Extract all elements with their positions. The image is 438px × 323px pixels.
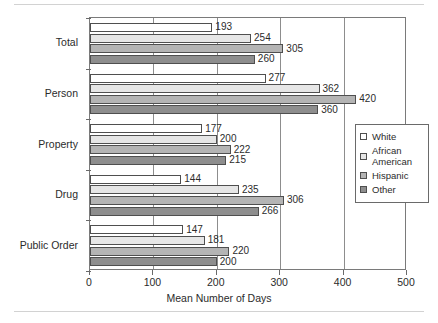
bar-row: 260 bbox=[90, 55, 405, 64]
bar-drug-hispanic bbox=[90, 196, 284, 205]
x-tick-label-400: 400 bbox=[334, 276, 352, 288]
x-tick-100 bbox=[152, 270, 153, 275]
x-tick-500 bbox=[406, 270, 407, 275]
bar-value-label: 220 bbox=[229, 246, 249, 256]
bar-row: 254 bbox=[90, 34, 405, 43]
bar-value-label: 222 bbox=[231, 145, 251, 155]
legend-swatch-hispanic bbox=[360, 172, 367, 179]
bar-person-african-american bbox=[90, 84, 320, 93]
bar-value-label: 181 bbox=[205, 235, 225, 245]
legend-label-hispanic: Hispanic bbox=[372, 170, 408, 181]
bar-person-white bbox=[90, 74, 266, 83]
x-tick-300 bbox=[279, 270, 280, 275]
chart-legend: WhiteAfrican AmericanHispanicOther bbox=[355, 124, 429, 203]
category-tick-0 bbox=[86, 18, 91, 19]
bar-row: 220 bbox=[90, 247, 405, 256]
bar-property-hispanic bbox=[90, 145, 231, 154]
bar-row: 362 bbox=[90, 84, 405, 93]
legend-swatch-white bbox=[360, 133, 367, 140]
bar-public-order-hispanic bbox=[90, 247, 229, 256]
category-label-person: Person bbox=[45, 87, 78, 99]
x-tick-label-0: 0 bbox=[86, 276, 92, 288]
category-axis-labels: TotalPersonPropertyDrugPublic Order bbox=[0, 17, 84, 270]
bar-value-label: 200 bbox=[217, 257, 237, 267]
bar-property-other bbox=[90, 156, 226, 165]
bar-person-hispanic bbox=[90, 95, 356, 104]
category-tick-4 bbox=[86, 220, 91, 221]
category-tick-3 bbox=[86, 170, 91, 171]
bar-value-label: 193 bbox=[212, 22, 232, 32]
bar-value-label: 266 bbox=[259, 206, 279, 216]
bar-value-label: 215 bbox=[226, 155, 246, 165]
category-label-property: Property bbox=[38, 138, 78, 150]
bar-property-white bbox=[90, 124, 202, 133]
bar-public-order-other bbox=[90, 257, 217, 266]
bar-person-other bbox=[90, 105, 318, 114]
bar-value-label: 305 bbox=[283, 44, 303, 54]
bar-value-label: 277 bbox=[266, 73, 286, 83]
bar-row: 181 bbox=[90, 236, 405, 245]
bar-row: 360 bbox=[90, 105, 405, 114]
category-label-total: Total bbox=[56, 36, 78, 48]
legend-swatch-african-american bbox=[360, 153, 367, 160]
category-tick-1 bbox=[86, 69, 91, 70]
bar-value-label: 420 bbox=[356, 94, 376, 104]
legend-item-hispanic: Hispanic bbox=[360, 170, 424, 181]
bar-total-other bbox=[90, 55, 255, 64]
bar-row: 266 bbox=[90, 207, 405, 216]
bar-value-label: 260 bbox=[255, 54, 275, 64]
bar-public-order-african-american bbox=[90, 236, 205, 245]
bar-row: 420 bbox=[90, 95, 405, 104]
bar-drug-white bbox=[90, 175, 181, 184]
x-tick-200 bbox=[216, 270, 217, 275]
bar-value-label: 360 bbox=[318, 105, 338, 115]
bar-drug-other bbox=[90, 207, 259, 216]
x-tick-label-200: 200 bbox=[207, 276, 225, 288]
x-tick-label-300: 300 bbox=[270, 276, 288, 288]
bar-row: 305 bbox=[90, 44, 405, 53]
category-label-drug: Drug bbox=[55, 188, 78, 200]
category-tick-2 bbox=[86, 119, 91, 120]
bar-drug-african-american bbox=[90, 185, 239, 194]
bar-row: 277 bbox=[90, 74, 405, 83]
x-tick-0 bbox=[89, 270, 90, 275]
bar-value-label: 235 bbox=[239, 185, 259, 195]
legend-swatch-other bbox=[360, 186, 367, 193]
bar-row: 147 bbox=[90, 225, 405, 234]
legend-item-african-american: African American bbox=[360, 145, 424, 167]
bar-value-label: 362 bbox=[320, 84, 340, 94]
bar-value-label: 200 bbox=[217, 134, 237, 144]
x-axis-title: Mean Number of Days bbox=[0, 292, 438, 304]
page-rule-bottom bbox=[14, 311, 424, 312]
bar-value-label: 144 bbox=[181, 174, 201, 184]
bar-chart-figure: TotalPersonPropertyDrugPublic Order 1932… bbox=[0, 0, 438, 323]
legend-label-white: White bbox=[372, 131, 396, 142]
legend-item-white: White bbox=[360, 131, 424, 142]
bar-property-african-american bbox=[90, 135, 217, 144]
bar-total-african-american bbox=[90, 34, 251, 43]
bar-row: 200 bbox=[90, 257, 405, 266]
x-tick-label-500: 500 bbox=[397, 276, 415, 288]
bar-value-label: 177 bbox=[202, 124, 222, 134]
page-rule-top bbox=[14, 4, 424, 5]
legend-label-african-american: African American bbox=[372, 145, 412, 167]
category-label-public-order: Public Order bbox=[20, 239, 78, 251]
bar-row: 193 bbox=[90, 23, 405, 32]
bar-value-label: 147 bbox=[183, 225, 203, 235]
x-tick-400 bbox=[343, 270, 344, 275]
bar-value-label: 306 bbox=[284, 195, 304, 205]
legend-item-other: Other bbox=[360, 184, 424, 195]
bar-total-hispanic bbox=[90, 44, 283, 53]
x-tick-label-100: 100 bbox=[144, 276, 162, 288]
bar-total-white bbox=[90, 23, 212, 32]
legend-label-other: Other bbox=[372, 184, 396, 195]
bar-public-order-white bbox=[90, 225, 183, 234]
bar-value-label: 254 bbox=[251, 33, 271, 43]
